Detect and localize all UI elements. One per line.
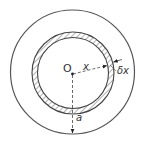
centre-label: O xyxy=(63,63,72,74)
diagram-canvas: O x δx a xyxy=(0,0,146,147)
shell-radius-label: x xyxy=(83,62,89,72)
outer-radius-label: a xyxy=(76,113,82,123)
shell-thickness-label: δx xyxy=(117,66,129,76)
